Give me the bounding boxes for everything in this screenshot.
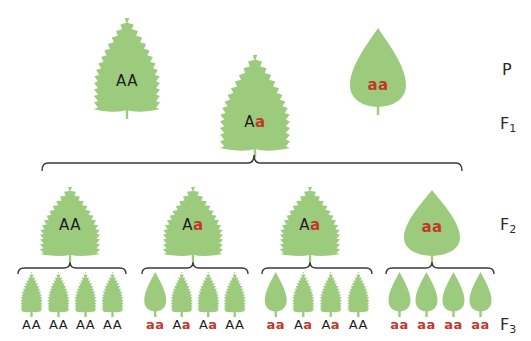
genotype-f3-3-1: aa (417, 318, 436, 331)
genotype-f3-0-3: AA (103, 318, 122, 331)
allele: a (255, 113, 266, 131)
allele: A (103, 317, 113, 332)
allele: a (146, 317, 155, 332)
allele: A (358, 317, 367, 332)
diagram-canvas (0, 0, 531, 341)
allele: A (22, 317, 32, 332)
leaf-f3-1-1 (171, 272, 193, 317)
allele: a (331, 317, 340, 332)
allele: a (471, 317, 480, 332)
leaf-f3-2-0 (265, 272, 287, 317)
leaf-f3-1-2 (197, 272, 219, 317)
genotype-f3-1-0: aa (146, 318, 165, 331)
genotype-f1-0: Aa (244, 115, 265, 130)
allele: a (454, 317, 463, 332)
generation-label-f1: F1 (500, 116, 516, 134)
leaf-f3-0-1 (48, 272, 70, 317)
genotype-f3-0-2: AA (76, 318, 95, 331)
allele: A (127, 72, 138, 90)
genotype-f3-2-2: Aa (321, 318, 340, 331)
generation-label-f3: F3 (500, 317, 516, 335)
allele: A (116, 72, 127, 90)
allele: A (349, 317, 359, 332)
allele: A (86, 317, 95, 332)
genotype-f3-1-2: Aa (199, 318, 218, 331)
allele: a (432, 218, 443, 236)
genotype-f3-1-1: Aa (172, 318, 191, 331)
genotype-p-0: AA (116, 74, 138, 89)
allele: a (481, 317, 490, 332)
genotype-f2-3: aa (421, 220, 442, 235)
genotype-f2-2: Aa (299, 218, 320, 233)
genotype-f3-0-1: AA (49, 318, 68, 331)
brace-f1-to-f2 (42, 155, 462, 171)
allele: a (417, 317, 426, 332)
genotype-f3-1-3: AA (225, 318, 244, 331)
genotype-f3-2-0: aa (266, 318, 285, 331)
genotype-f3-2-1: Aa (294, 318, 313, 331)
leaf-f3-2-1 (292, 272, 314, 317)
leaf-f3-3-0 (389, 272, 411, 317)
genotype-f3-3-2: aa (444, 318, 463, 331)
genotype-f2-1: Aa (182, 218, 203, 233)
allele: a (208, 317, 217, 332)
inheritance-diagram: P F1 F2 F3 AAaaAaAAAaAaaaAAAAAAAAaaAaAaA… (0, 0, 531, 341)
allele: A (199, 317, 208, 332)
leaf-p-1 (350, 28, 406, 115)
leaf-f3-3-1 (416, 272, 438, 317)
genotype-f3-2-3: AA (349, 318, 368, 331)
allele: A (76, 317, 86, 332)
genotype-f2-0: AA (59, 218, 81, 233)
leaf-f3-2-3 (347, 272, 369, 317)
genotype-p-1: aa (367, 78, 388, 93)
leaf-f3-1-0 (144, 272, 166, 317)
allele: A (321, 317, 330, 332)
allele: A (225, 317, 235, 332)
leaf-f1-0 (220, 55, 290, 158)
allele: A (59, 317, 68, 332)
leaf-f3-1-3 (224, 272, 246, 317)
genotype-f3-3-3: aa (471, 318, 490, 331)
brace-f2-to-f3-0 (18, 262, 126, 274)
generation-label-p: P (502, 62, 512, 80)
allele: a (427, 317, 436, 332)
allele: a (400, 317, 409, 332)
leaf-f3-0-2 (75, 272, 97, 317)
allele: a (390, 317, 399, 332)
allele: a (155, 317, 164, 332)
leaf-f3-3-3 (470, 272, 492, 317)
allele: A (244, 113, 255, 131)
leaf-p-0 (94, 18, 160, 119)
allele: A (59, 216, 70, 234)
leaf-f3-2-2 (320, 272, 342, 317)
genotype-f3-0-0: AA (22, 318, 41, 331)
brace-f2-to-f3-2 (262, 262, 372, 274)
brace-f2-to-f3-3 (386, 262, 494, 274)
allele: A (235, 317, 244, 332)
leaf-f3-0-0 (21, 272, 43, 317)
allele: a (421, 218, 432, 236)
allele: A (172, 317, 181, 332)
allele: A (294, 317, 303, 332)
generation-label-f2: F2 (500, 217, 516, 235)
allele: a (276, 317, 285, 332)
allele: A (49, 317, 59, 332)
allele: a (367, 76, 378, 94)
leaf-f3-0-3 (102, 272, 124, 317)
allele: A (113, 317, 122, 332)
allele: a (310, 216, 321, 234)
allele: A (70, 216, 81, 234)
genotype-f3-3-0: aa (390, 318, 409, 331)
allele: a (266, 317, 275, 332)
allele: A (299, 216, 310, 234)
allele: a (182, 317, 191, 332)
allele: a (303, 317, 312, 332)
brace-f2-to-f3-1 (142, 262, 248, 274)
leaf-f3-3-2 (443, 272, 465, 317)
allele: a (193, 216, 204, 234)
allele: A (182, 216, 193, 234)
allele: a (378, 76, 389, 94)
allele: a (444, 317, 453, 332)
allele: A (32, 317, 41, 332)
